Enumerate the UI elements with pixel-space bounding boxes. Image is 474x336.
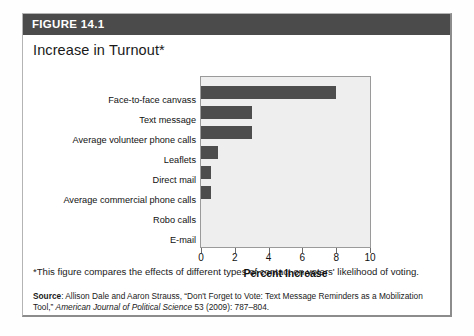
chart-bar — [201, 146, 218, 159]
page-root: FIGURE 14.1 Increase in Turnout* Face-to… — [0, 0, 474, 336]
chart-bar — [201, 166, 211, 179]
chart-plot-area — [200, 76, 371, 248]
figure-box: FIGURE 14.1 Increase in Turnout* Face-to… — [22, 13, 452, 317]
chart-x-tick-label: 0 — [198, 252, 204, 263]
chart-bar — [201, 126, 252, 139]
chart-bar-slot — [201, 83, 370, 103]
chart-bar-slot — [201, 183, 370, 203]
figure-number-label: FIGURE 14.1 — [32, 18, 104, 31]
chart-category-label: Text message — [139, 110, 196, 130]
chart-x-axis-tick-labels: 0246810 — [200, 252, 371, 266]
figure-source: Source: Allison Dale and Aaron Strauss, … — [33, 291, 445, 312]
chart-category-labels: Face-to-face canvassText messageAverage … — [23, 88, 199, 248]
chart-x-tick-label: 2 — [232, 252, 238, 263]
chart-x-tick-label: 6 — [300, 252, 306, 263]
chart-x-tick-label: 10 — [364, 252, 375, 263]
chart-x-tick-label: 8 — [333, 252, 339, 263]
chart-bar-slot — [201, 103, 370, 123]
source-journal-name: American Journal of Political Science — [56, 302, 193, 312]
chart-bar — [201, 186, 211, 199]
figure-header-band: FIGURE 14.1 — [23, 14, 450, 35]
chart-x-tick-label: 4 — [266, 252, 272, 263]
chart-bar — [201, 86, 336, 99]
source-citation-detail: 53 (2009): 787–804. — [192, 302, 269, 312]
figure-footnote: *This figure compares the effects of dif… — [33, 266, 445, 278]
chart-bar-slot — [201, 163, 370, 183]
figure-title: Increase in Turnout* — [33, 42, 165, 58]
chart-bar-slot — [201, 123, 370, 143]
chart-bar-slot — [201, 223, 370, 243]
chart-region: Face-to-face canvassText messageAverage … — [23, 71, 453, 261]
chart-category-label: Face-to-face canvass — [108, 90, 196, 110]
chart-bar — [201, 106, 252, 119]
chart-bars-layer — [201, 77, 370, 247]
chart-category-label: Average commercial phone calls — [63, 190, 196, 210]
chart-category-label: Average volunteer phone calls — [73, 130, 196, 150]
chart-category-label: Leaflets — [164, 150, 196, 170]
chart-category-label: Direct mail — [153, 170, 196, 190]
chart-category-label: E-mail — [170, 230, 196, 250]
chart-bar-slot — [201, 203, 370, 223]
chart-bar-slot — [201, 143, 370, 163]
source-label: Source — [33, 291, 61, 301]
chart-category-label: Robo calls — [153, 210, 196, 230]
